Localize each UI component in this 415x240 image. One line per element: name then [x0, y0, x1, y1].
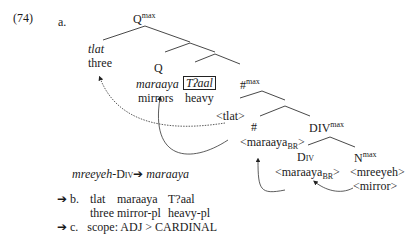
b-word-1: tlat	[90, 193, 105, 205]
node-q: Q	[154, 62, 163, 74]
b-word-3: T?aal	[168, 193, 195, 205]
scope-text: scope: ADJ > CARDINAL	[87, 220, 217, 234]
gloss-mirrors: mirrors	[138, 92, 173, 104]
trace-sub: BR	[322, 172, 333, 181]
arrow-icon: ➔	[133, 167, 143, 181]
word-taal-boxed: Tʔaal	[183, 76, 216, 90]
node-sup: max	[246, 77, 260, 86]
rule-mid: -Div	[112, 167, 133, 181]
node-sup: max	[363, 150, 377, 159]
node-nmax: Nmax	[354, 151, 376, 164]
node-label: N	[354, 151, 363, 165]
node-label: Q	[133, 12, 142, 26]
trace-text: <maraaya	[275, 165, 322, 179]
trace-maraaya-br-2: <maraayaBR>	[275, 166, 340, 181]
arrow-icon: ➔	[57, 192, 67, 206]
trace-text: <maraaya	[240, 135, 287, 149]
trace-mreeyeh: <mreeyeh>	[350, 166, 405, 178]
node-div: Div	[297, 151, 314, 163]
sub-label-a: a.	[58, 16, 66, 28]
b-gloss-1: three	[90, 207, 114, 219]
sub-label-c: c.	[70, 220, 78, 234]
gloss-three: three	[88, 57, 112, 69]
word-maraaya: maraaya	[136, 78, 179, 90]
b-gloss-3: heavy-pl	[168, 207, 210, 219]
b-gloss-2: mirror-pl	[117, 207, 161, 219]
arrow-icon: ➔	[57, 220, 67, 234]
node-label: DIV	[309, 121, 330, 135]
trace-close: >	[333, 165, 340, 179]
trace-close: >	[298, 135, 305, 149]
example-c: ➔ c. scope: ADJ > CARDINAL	[57, 221, 217, 233]
node-hashmax: #max	[240, 78, 260, 91]
rule-left: mreeyeh	[72, 167, 112, 181]
node-qmax: Qmax	[133, 12, 155, 25]
node-divmax: DIVmax	[309, 121, 344, 134]
sub-label-b: b.	[70, 192, 79, 206]
trace-maraaya-br-1: <maraayaBR>	[240, 136, 305, 151]
example-number: (74)	[13, 12, 33, 24]
trace-tlat: <tlat>	[216, 110, 245, 122]
derivation-rule: mreeyeh-Div➔ maraaya	[72, 168, 189, 180]
b-word-2: maraaya	[117, 193, 158, 205]
gloss-heavy: heavy	[185, 92, 214, 104]
example-b: ➔ b.	[57, 193, 79, 205]
rule-right: maraaya	[146, 167, 189, 181]
trace-mirror: <mirror>	[353, 180, 397, 192]
node-sup: max	[142, 11, 156, 20]
node-hash: #	[251, 121, 257, 133]
word-tlat: tlat	[88, 43, 104, 55]
node-sup: max	[330, 120, 344, 129]
